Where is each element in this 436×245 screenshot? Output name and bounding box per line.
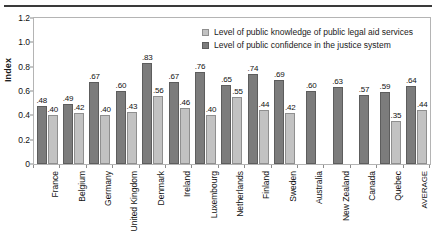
bar-value-label: .65 bbox=[221, 75, 232, 84]
bar-confidence: .67 bbox=[89, 82, 99, 164]
legend-swatch-confidence-icon bbox=[202, 42, 209, 49]
bar-knowledge: .42 bbox=[285, 113, 295, 164]
bar-knowledge: .46 bbox=[180, 108, 190, 164]
plot-area: .48.40.49.42.67.40.60.43.83.56.67.46.76.… bbox=[33, 17, 431, 165]
y-tick-label: 0.2 bbox=[4, 135, 30, 145]
bar-value-label: .60 bbox=[306, 81, 317, 90]
x-category-label: Quebec bbox=[393, 171, 403, 201]
bar-value-label: .83 bbox=[142, 53, 153, 62]
bar-value-label: .40 bbox=[206, 105, 217, 114]
x-tick-mark bbox=[139, 165, 140, 168]
bar-confidence: .60 bbox=[306, 91, 316, 164]
bar-confidence: .60 bbox=[116, 91, 126, 164]
legend-swatch-knowledge-icon bbox=[202, 29, 209, 36]
x-tick-mark bbox=[271, 165, 272, 168]
x-category-label: Finland bbox=[261, 171, 271, 199]
bar-knowledge: .40 bbox=[48, 115, 58, 164]
bar-value-label: .56 bbox=[153, 86, 164, 95]
y-tick-label: 0 bbox=[4, 159, 30, 169]
bar-group: .67.46 bbox=[166, 18, 192, 164]
bar-value-label: .40 bbox=[100, 105, 111, 114]
legend-item-confidence: Level of public confidence in the justic… bbox=[202, 40, 413, 51]
bar-value-label: .67 bbox=[89, 72, 100, 81]
bar-group: .67.40 bbox=[87, 18, 113, 164]
legend-label-confidence: Level of public confidence in the justic… bbox=[214, 40, 391, 51]
x-tick-mark bbox=[191, 165, 192, 168]
bar-value-label: .69 bbox=[274, 70, 285, 79]
x-tick-mark bbox=[323, 165, 324, 168]
x-category-label: France bbox=[50, 171, 60, 197]
bar-knowledge: .35 bbox=[391, 121, 401, 164]
x-category-label: Luxembourg bbox=[209, 171, 219, 218]
bar-confidence: .64 bbox=[406, 86, 416, 164]
legend-item-knowledge: Level of public knowledge of public lega… bbox=[202, 27, 413, 38]
bar-knowledge: .40 bbox=[206, 115, 216, 164]
bar-value-label: .40 bbox=[47, 105, 58, 114]
bar-knowledge: .40 bbox=[100, 115, 110, 164]
x-category-label: Canada bbox=[367, 171, 377, 201]
x-category-label: Ireland bbox=[182, 171, 192, 197]
x-category-label: United Kingdom bbox=[129, 171, 139, 231]
bar-confidence: .63 bbox=[333, 87, 343, 164]
y-tick-label: 0.4 bbox=[4, 110, 30, 120]
bar-confidence: .65 bbox=[221, 85, 231, 164]
bar-confidence: .59 bbox=[380, 92, 390, 164]
y-tick-label: 1.2 bbox=[4, 13, 30, 23]
bar-value-label: .49 bbox=[63, 94, 74, 103]
x-tick-mark bbox=[403, 165, 404, 168]
x-axis: FranceBelgiumGermanyUnited KingdomDenmar… bbox=[33, 165, 431, 245]
bar-value-label: .42 bbox=[285, 103, 296, 112]
x-category-label: New Zealand bbox=[341, 171, 351, 221]
y-tick-label: 0.6 bbox=[4, 86, 30, 96]
x-category-label: Belgium bbox=[77, 171, 87, 202]
x-category-label: Sweden bbox=[288, 171, 298, 202]
bar-value-label: .35 bbox=[391, 111, 402, 120]
bar-knowledge: .56 bbox=[153, 96, 163, 164]
bar-knowledge: .55 bbox=[232, 97, 242, 164]
bar-value-label: .57 bbox=[359, 85, 370, 94]
bar-confidence: .76 bbox=[195, 72, 205, 164]
bar-confidence: .49 bbox=[63, 104, 73, 164]
y-axis-ticks: 00.20.40.60.81.01.2 bbox=[0, 0, 30, 245]
bar-value-label: .59 bbox=[380, 82, 391, 91]
x-category-label: AVERAGE bbox=[420, 171, 429, 208]
x-tick-mark bbox=[165, 165, 166, 168]
bar-value-label: .74 bbox=[248, 64, 259, 73]
bar-confidence: .67 bbox=[169, 82, 179, 164]
x-category-label: Australia bbox=[314, 171, 324, 204]
bar-value-label: .44 bbox=[417, 100, 428, 109]
x-tick-mark bbox=[297, 165, 298, 168]
bar-confidence: .48 bbox=[37, 106, 47, 164]
x-tick-mark bbox=[112, 165, 113, 168]
bar-value-label: .67 bbox=[168, 72, 179, 81]
bar-value-label: .44 bbox=[259, 100, 270, 109]
bar-value-label: .76 bbox=[195, 62, 206, 71]
bar-value-label: .46 bbox=[179, 98, 190, 107]
x-category-label: Netherlands bbox=[235, 171, 245, 217]
bar-value-label: .64 bbox=[406, 76, 417, 85]
y-tick-label: 1.0 bbox=[4, 37, 30, 47]
x-category-label: Germany bbox=[103, 171, 113, 206]
x-tick-mark bbox=[350, 165, 351, 168]
bar-value-label: .55 bbox=[232, 87, 243, 96]
legend: Level of public knowledge of public lega… bbox=[202, 27, 413, 53]
bar-group: .83.56 bbox=[140, 18, 166, 164]
x-tick-mark bbox=[244, 165, 245, 168]
bar-knowledge: .44 bbox=[259, 110, 269, 164]
x-category-label: Denmark bbox=[156, 171, 166, 205]
bar-knowledge: .43 bbox=[127, 112, 137, 164]
bar-confidence: .69 bbox=[274, 80, 284, 164]
bar-value-label: .48 bbox=[36, 96, 47, 105]
legend-label-knowledge: Level of public knowledge of public lega… bbox=[214, 27, 413, 38]
bar-knowledge: .44 bbox=[417, 110, 427, 164]
x-tick-mark bbox=[33, 165, 34, 168]
y-tick-label: 0.8 bbox=[4, 62, 30, 72]
top-divider-rule bbox=[4, 5, 432, 7]
bar-knowledge: .42 bbox=[74, 113, 84, 164]
x-tick-mark bbox=[59, 165, 60, 168]
x-tick-mark bbox=[429, 165, 430, 168]
bar-group: .48.40 bbox=[34, 18, 60, 164]
bar-confidence: .74 bbox=[248, 74, 258, 164]
x-tick-mark bbox=[218, 165, 219, 168]
bar-value-label: .60 bbox=[116, 81, 127, 90]
